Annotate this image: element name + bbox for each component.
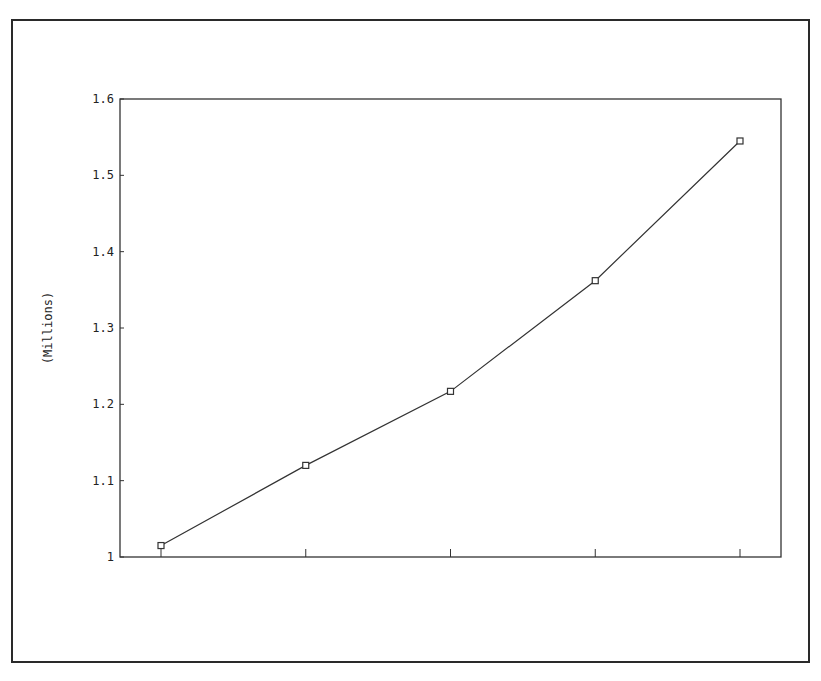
- line-chart: (Millions) 11.11.21.31.41.51.6: [0, 0, 821, 681]
- data-point-marker: [303, 462, 309, 468]
- data-line: [161, 141, 740, 546]
- y-tick-label: 1.5: [92, 168, 114, 182]
- data-point-marker: [158, 543, 164, 549]
- y-tick-label: 1: [107, 550, 114, 564]
- data-point-marker: [592, 278, 598, 284]
- y-tick-label: 1.6: [92, 92, 114, 106]
- data-point-marker: [737, 138, 743, 144]
- y-tick-label: 1.1: [92, 474, 114, 488]
- y-axis-label: (Millions): [41, 292, 55, 364]
- y-tick-label: 1.2: [92, 397, 114, 411]
- y-tick-label: 1.4: [92, 245, 114, 259]
- y-tick-label: 1.3: [92, 321, 114, 335]
- plot-area: 11.11.21.31.41.51.6: [92, 92, 781, 564]
- plot-border: [120, 99, 781, 557]
- data-point-marker: [448, 388, 454, 394]
